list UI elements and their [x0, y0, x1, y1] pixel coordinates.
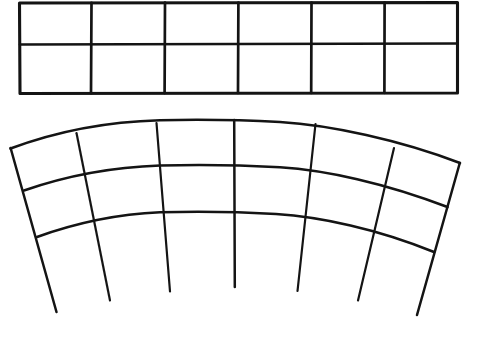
fan-radial-line-6: [358, 148, 394, 301]
strip-column-divider-1: [91, 3, 92, 93]
annular-fan-grid: [11, 120, 461, 315]
rectangular-strip-grid: [20, 3, 458, 94]
fan-radial-line-1-left-edge: [11, 148, 57, 312]
fan-radial-line-7-right-edge: [417, 163, 460, 315]
fan-radial-line-3: [157, 123, 171, 292]
figure-caption: [0, 326, 479, 340]
fan-radial-line-5: [298, 124, 316, 291]
fan-radial-line-2: [77, 133, 111, 301]
geometry-figure-canvas: [0, 0, 479, 340]
fan-radial-line-4-center: [234, 120, 235, 287]
